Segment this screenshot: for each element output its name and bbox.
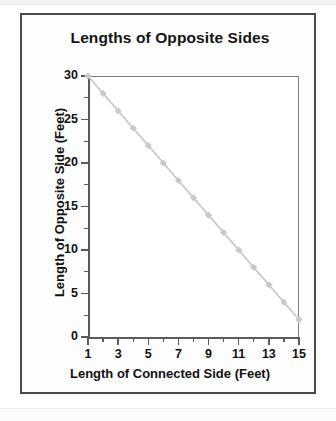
- x-tick-major: [208, 338, 209, 345]
- x-axis-title: Length of Connected Side (Feet): [22, 366, 318, 381]
- y-tick-minor: [84, 315, 88, 316]
- y-tick-minor: [84, 141, 88, 142]
- x-tick-major: [178, 338, 179, 345]
- y-tick-minor: [84, 184, 88, 185]
- x-tick-minor: [133, 338, 134, 342]
- x-tick-label: 13: [254, 347, 284, 361]
- y-axis-title: Length of Opposite Side (Feet): [52, 72, 67, 334]
- x-tick-label: 5: [133, 347, 163, 361]
- y-tick-minor: [84, 228, 88, 229]
- x-tick-major: [238, 338, 239, 345]
- y-tick-minor: [84, 97, 88, 98]
- chart-figure-frame: Lengths of Opposite Sides 13579111315051…: [20, 13, 316, 394]
- scan-edge-bottom: [0, 408, 336, 421]
- x-tick-major: [148, 338, 149, 345]
- x-tick-minor: [223, 338, 224, 342]
- y-tick-major: [81, 249, 88, 250]
- x-tick-minor: [163, 338, 164, 342]
- y-tick-major: [81, 75, 88, 76]
- x-tick-label: 1: [73, 347, 103, 361]
- chart-title: Lengths of Opposite Sides: [22, 29, 318, 47]
- x-tick-minor: [253, 338, 254, 342]
- y-tick-major: [81, 336, 88, 337]
- y-tick-major: [81, 162, 88, 163]
- scan-edge-top: [0, 0, 336, 5]
- x-tick-label: 11: [224, 347, 254, 361]
- x-tick-major: [268, 338, 269, 345]
- y-tick-major: [81, 119, 88, 120]
- y-tick-major: [81, 293, 88, 294]
- x-tick-label: 9: [194, 347, 224, 361]
- y-tick-major: [81, 206, 88, 207]
- x-tick-minor: [193, 338, 194, 342]
- x-tick-label: 7: [163, 347, 193, 361]
- plot-area: [88, 76, 299, 337]
- x-tick-major: [298, 338, 299, 345]
- x-tick-label: 15: [284, 347, 314, 361]
- y-tick-minor: [84, 271, 88, 272]
- x-tick-minor: [283, 338, 284, 342]
- x-tick-major: [87, 338, 88, 345]
- x-tick-minor: [102, 338, 103, 342]
- x-tick-label: 3: [103, 347, 133, 361]
- x-tick-major: [117, 338, 118, 345]
- y-axis-line: [88, 76, 90, 338]
